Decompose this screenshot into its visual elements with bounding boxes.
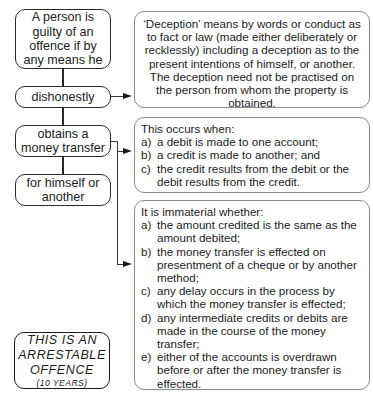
deception-definition-text: ‘Deception’ means by words or conduct as… [143, 17, 360, 109]
arrow-head-icon [123, 93, 132, 99]
element-dishonestly-text: dishonestly [31, 90, 94, 104]
bracket-line [117, 141, 118, 264]
list-item: a) a debit is made to one account; [141, 135, 363, 148]
deception-definition-box: ‘Deception’ means by words or conduct as… [134, 11, 370, 108]
element-himself-box: for himself or another [15, 174, 111, 206]
list-marker: c) [141, 284, 157, 310]
immaterial-box: It is immaterial whether: a) the amount … [134, 200, 370, 390]
connector-line [62, 69, 64, 86]
occurs-heading: This occurs when: [141, 122, 363, 135]
element-obtains-text: obtains a money transfer [16, 127, 110, 156]
arrestable-line-2: ARRESTABLE [15, 348, 109, 363]
arrestable-line-3: OFFENCE [15, 363, 109, 378]
list-marker: d) [141, 311, 157, 351]
list-item: c) any delay occurs in the process by wh… [141, 284, 363, 310]
intro-text: A person is guilty of an offence if by a… [16, 10, 110, 67]
arrestable-offence-box: THIS IS AN ARRESTABLE OFFENCE (10 YEARS) [14, 332, 110, 389]
list-marker: b) [141, 245, 157, 285]
connector-line [62, 157, 64, 174]
list-text: a debit is made to one account; [157, 135, 363, 148]
list-marker: e) [141, 350, 157, 390]
list-text: any delay occurs in the process by which… [157, 284, 363, 310]
arrow-head-icon [123, 148, 132, 154]
occurs-box: This occurs when: a) a debit is made to … [134, 117, 370, 193]
immaterial-heading: It is immaterial whether: [141, 205, 363, 218]
list-marker: a) [141, 135, 157, 148]
list-item: a) the amount credited is the same as th… [141, 218, 363, 244]
list-text: either of the accounts is overdrawn befo… [157, 350, 363, 390]
element-dishonestly-box: dishonestly [15, 86, 111, 108]
list-item: b) the money transfer is effected on pre… [141, 245, 363, 285]
list-item: c) the credit results from the debit or … [141, 162, 363, 188]
list-marker: b) [141, 148, 157, 161]
intro-box: A person is guilty of an offence if by a… [15, 9, 111, 69]
list-item: e) either of the accounts is overdrawn b… [141, 350, 363, 390]
element-himself-text: for himself or another [16, 176, 110, 205]
arrestable-penalty: (10 YEARS) [15, 378, 109, 389]
list-text: the money transfer is effected on presen… [157, 245, 363, 285]
list-item: d) any intermediate credits or debits ar… [141, 311, 363, 351]
list-marker: a) [141, 218, 157, 244]
arrestable-line-1: THIS IS AN [15, 333, 109, 348]
connector-line [62, 108, 64, 125]
list-text: a credit is made to another; and [157, 148, 363, 161]
list-marker: c) [141, 162, 157, 188]
list-text: the amount credited is the same as the a… [157, 218, 363, 244]
list-text: any intermediate credits or debits are m… [157, 311, 363, 351]
list-text: the credit results from the debit or the… [157, 162, 363, 188]
arrow-head-icon [123, 261, 132, 267]
element-obtains-box: obtains a money transfer [15, 125, 111, 157]
list-item: b) a credit is made to another; and [141, 148, 363, 161]
